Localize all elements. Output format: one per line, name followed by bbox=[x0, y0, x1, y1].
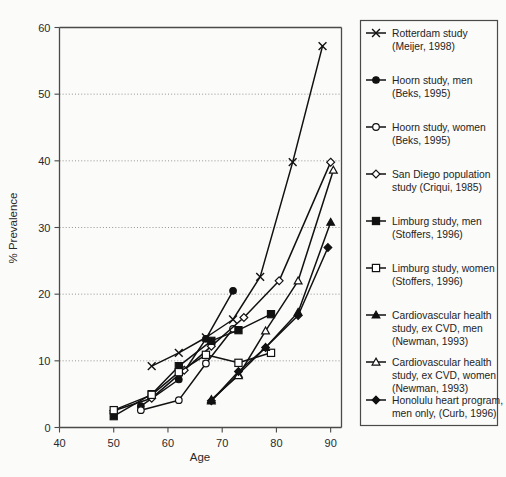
data-point-8-4 bbox=[324, 244, 332, 252]
legend-marker-1 bbox=[373, 77, 380, 84]
y-tick-label-30: 30 bbox=[38, 222, 50, 234]
legend-label-2-line2: (Beks, 1995) bbox=[392, 135, 450, 146]
y-tick-label-20: 20 bbox=[38, 288, 50, 300]
legend-entry-5[interactable]: Limburg study, women(Stoffers, 1996) bbox=[366, 263, 495, 287]
data-point-5-1 bbox=[148, 391, 155, 398]
x-tick-label-90: 90 bbox=[325, 437, 337, 449]
legend: Rotterdam study(Meijer, 1998)Hoorn study… bbox=[361, 21, 504, 426]
data-point-3-6 bbox=[327, 158, 335, 166]
x-tick-label-70: 70 bbox=[216, 437, 228, 449]
data-point-5-0 bbox=[110, 407, 117, 414]
data-point-4-4 bbox=[235, 327, 242, 334]
data-point-2-2 bbox=[203, 360, 210, 367]
legend-label-5-line2: (Stoffers, 1996) bbox=[392, 276, 463, 287]
data-point-1-3 bbox=[230, 288, 237, 295]
legend-marker-5 bbox=[372, 264, 379, 271]
data-point-6-4 bbox=[327, 218, 335, 225]
data-point-0-1 bbox=[175, 349, 183, 357]
series-line-7 bbox=[211, 170, 333, 399]
y-tick-label-50: 50 bbox=[38, 88, 50, 100]
prevalence-by-age-figure: 0102030405060 405060708090 Age % Prevale… bbox=[0, 0, 506, 477]
legend-entry-0[interactable]: Rotterdam study(Meijer, 1998) bbox=[366, 28, 468, 52]
x-tick-label-50: 50 bbox=[108, 437, 120, 449]
legend-label-1-line2: (Beks, 1995) bbox=[392, 88, 450, 99]
legend-label-0-line1: Rotterdam study bbox=[392, 28, 468, 39]
legend-label-4-line2: (Stoffers, 1996) bbox=[392, 229, 463, 240]
legend-label-3-line1: San Diego population bbox=[392, 169, 491, 180]
legend-label-8-line1: Honolulu heart program, bbox=[392, 395, 503, 406]
y-tick-label-0: 0 bbox=[44, 422, 50, 434]
legend-label-0-line2: (Meijer, 1998) bbox=[392, 41, 455, 52]
data-point-0-0 bbox=[148, 362, 156, 370]
legend-label-5-line1: Limburg study, women bbox=[392, 263, 495, 274]
y-tick-label-10: 10 bbox=[38, 355, 50, 367]
x-tick-label-40: 40 bbox=[53, 437, 65, 449]
legend-entry-2[interactable]: Hoorn study, women(Beks, 1995) bbox=[366, 122, 486, 146]
y-axis-ticks: 0102030405060 bbox=[38, 22, 59, 434]
data-point-5-2 bbox=[175, 369, 182, 376]
legend-label-7-line2: study, ex CVD, women bbox=[392, 370, 496, 381]
data-point-4-5 bbox=[267, 311, 274, 318]
x-axis-ticks: 405060708090 bbox=[53, 428, 336, 449]
legend-label-3-line2: study (Criqui, 1985) bbox=[392, 182, 482, 193]
plot-frame bbox=[60, 28, 342, 428]
legend-entry-7[interactable]: Cardiovascular healthstudy, ex CVD, wome… bbox=[366, 357, 496, 394]
legend-label-1-line1: Hoorn study, men bbox=[392, 75, 473, 86]
legend-label-2-line1: Hoorn study, women bbox=[392, 122, 486, 133]
legend-entry-1[interactable]: Hoorn study, men(Beks, 1995) bbox=[366, 75, 473, 99]
series-7 bbox=[207, 166, 337, 402]
y-axis-title: % Prevalence bbox=[7, 193, 19, 264]
data-point-7-3 bbox=[294, 277, 302, 284]
y-tick-label-40: 40 bbox=[38, 155, 50, 167]
legend-label-6-line2: study, ex CVD, men bbox=[392, 323, 483, 334]
legend-entry-6[interactable]: Cardiovascular healthstudy, ex CVD, men(… bbox=[366, 310, 492, 347]
series-line-3 bbox=[114, 162, 331, 411]
data-series-group bbox=[110, 42, 337, 420]
legend-marker-4 bbox=[372, 217, 379, 224]
legend-marker-2 bbox=[373, 124, 380, 131]
legend-label-4-line1: Limburg study, men bbox=[392, 216, 482, 227]
legend-label-7-line1: Cardiovascular health bbox=[392, 357, 492, 368]
data-point-2-1 bbox=[176, 397, 183, 404]
legend-label-7-line3: (Newman, 1993) bbox=[392, 383, 468, 394]
x-tick-label-80: 80 bbox=[270, 437, 282, 449]
legend-entry-3[interactable]: San Diego populationstudy (Criqui, 1985) bbox=[366, 169, 491, 193]
x-tick-label-60: 60 bbox=[162, 437, 174, 449]
series-0 bbox=[148, 42, 327, 370]
series-4 bbox=[110, 311, 274, 420]
data-point-4-3 bbox=[208, 337, 215, 344]
data-point-5-4 bbox=[235, 359, 242, 366]
legend-label-8-line2: men only, (Curb, 1996) bbox=[392, 408, 497, 419]
data-point-5-3 bbox=[202, 351, 209, 358]
data-point-0-3 bbox=[229, 316, 237, 324]
data-point-2-0 bbox=[138, 407, 145, 414]
legend-marker-8 bbox=[372, 396, 380, 404]
x-axis-title: Age bbox=[190, 451, 210, 463]
legend-label-6-line3: (Newman, 1993) bbox=[392, 336, 468, 347]
legend-marker-3 bbox=[372, 170, 380, 178]
legend-label-6-line1: Cardiovascular health bbox=[392, 310, 492, 321]
chart-svg: 0102030405060 405060708090 Age % Prevale… bbox=[0, 0, 506, 477]
legend-entry-8[interactable]: Honolulu heart program,men only, (Curb, … bbox=[366, 395, 503, 419]
series-3 bbox=[110, 158, 335, 414]
legend-entry-4[interactable]: Limburg study, men(Stoffers, 1996) bbox=[366, 216, 482, 240]
data-point-7-4 bbox=[329, 166, 337, 173]
y-tick-label-60: 60 bbox=[38, 22, 50, 34]
